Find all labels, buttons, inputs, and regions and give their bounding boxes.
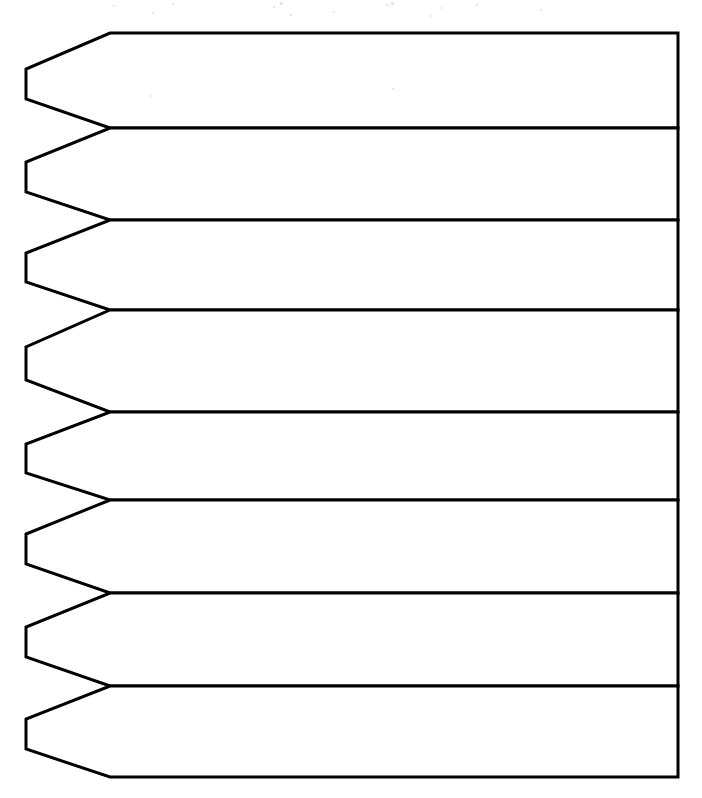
banner-strip-2 [26,128,678,220]
banner-strip-6 [26,500,678,593]
banner-strip-5 [26,412,678,500]
banner-strip-1 [26,33,678,128]
banner-strip-4 [26,310,678,412]
band-group [26,33,678,777]
banner-strip-8 [26,686,678,777]
banner-strips-diagram: Stacked Pointed Banner Strips Line-art o… [0,0,702,798]
banner-strip-7 [26,593,678,686]
banner-strip-3 [26,220,678,310]
diagram-canvas: Stacked Pointed Banner Strips Line-art o… [0,0,702,798]
